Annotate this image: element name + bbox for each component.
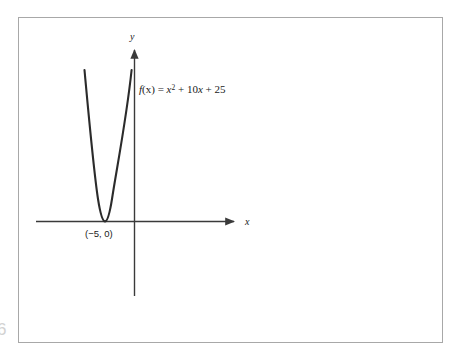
vertex-point-label: (−5, 0) — [85, 228, 113, 239]
parabola-plot: y x f(x) = x2 + 10x + 25 (−5, 0) — [0, 0, 460, 363]
parabola-curve — [85, 70, 132, 221]
fn-rest-b: + 25 — [203, 83, 226, 95]
figure-root: y x f(x) = x2 + 10x + 25 (−5, 0) 6 — [0, 0, 460, 363]
page-number-artifact: 6 — [0, 317, 9, 343]
fn-eq: = — [155, 83, 167, 95]
fn-arg: (x) — [142, 83, 155, 96]
fn-rest-a: + 10 — [175, 83, 198, 95]
y-axis-label: y — [129, 31, 135, 42]
x-axis-label: x — [244, 216, 250, 227]
function-equation-label: f(x) = x2 + 10x + 25 — [139, 83, 226, 97]
